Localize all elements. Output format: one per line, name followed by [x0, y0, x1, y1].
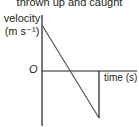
velocity-time-plot: [0, 0, 139, 127]
